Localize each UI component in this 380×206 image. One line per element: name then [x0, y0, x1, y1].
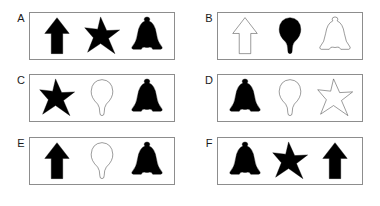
- bulb-icon: [272, 78, 308, 118]
- bell-icon: [129, 78, 165, 118]
- bell-icon: [227, 78, 263, 118]
- panel-d-shape-1-bell-filled: [225, 76, 265, 120]
- panel-c-shape-2-bulb-outline: [82, 76, 122, 120]
- panel-label-f: F: [202, 137, 216, 150]
- panel-e-shape-3-bell-filled: [127, 139, 167, 183]
- panel-row-1: A B: [0, 12, 380, 61]
- panel-c-shape-3-bell-filled: [127, 76, 167, 120]
- star-icon: [84, 16, 120, 56]
- star-icon: [39, 78, 75, 118]
- panel-e-shape-1-arrow-filled: [37, 139, 77, 183]
- panel-f-shape-1-bell-filled: [225, 139, 265, 183]
- panel-box-f: [217, 137, 363, 185]
- bulb-icon: [84, 78, 120, 118]
- bell-icon: [317, 16, 353, 56]
- panel-b-shape-1-arrow-outline: [225, 14, 265, 58]
- bell-icon: [129, 141, 165, 181]
- star-icon: [317, 78, 353, 118]
- panel-row-3: E F: [0, 137, 380, 186]
- panel-label-a: A: [14, 12, 28, 25]
- bulb-icon: [84, 141, 120, 181]
- panel-d-shape-3-star-outline: [315, 76, 355, 120]
- panel-f-shape-3-arrow-filled: [315, 139, 355, 183]
- panel-label-e: E: [14, 137, 28, 150]
- arrow-icon: [39, 16, 75, 56]
- panel-box-c: [29, 74, 175, 122]
- panel-a-shape-3-bell-filled: [127, 14, 167, 58]
- panel-a-shape-1-arrow-filled: [37, 14, 77, 58]
- panel-label-b: B: [202, 12, 216, 25]
- panel-f-shape-2-star-filled: [270, 139, 310, 183]
- panel-a-shape-2-star-filled: [82, 14, 122, 58]
- panel-e-shape-2-bulb-outline: [82, 139, 122, 183]
- panel-box-b: [217, 12, 363, 60]
- panel-box-a: [29, 12, 175, 60]
- panel-c-shape-1-star-filled: [37, 76, 77, 120]
- bulb-icon: [272, 16, 308, 56]
- panel-b-shape-2-bulb-filled: [270, 14, 310, 58]
- panel-d-shape-2-bulb-outline: [270, 76, 310, 120]
- panel-b-shape-3-bell-outline: [315, 14, 355, 58]
- star-icon: [272, 141, 308, 181]
- shape-panels-figure: A B C D: [0, 0, 380, 206]
- arrow-icon: [227, 16, 263, 56]
- bell-icon: [129, 16, 165, 56]
- bell-icon: [227, 141, 263, 181]
- panel-row-2: C D: [0, 74, 380, 123]
- arrow-icon: [39, 141, 75, 181]
- panel-label-c: C: [14, 74, 28, 87]
- panel-label-d: D: [202, 74, 216, 87]
- panel-box-d: [217, 74, 363, 122]
- arrow-icon: [317, 141, 353, 181]
- panel-box-e: [29, 137, 175, 185]
